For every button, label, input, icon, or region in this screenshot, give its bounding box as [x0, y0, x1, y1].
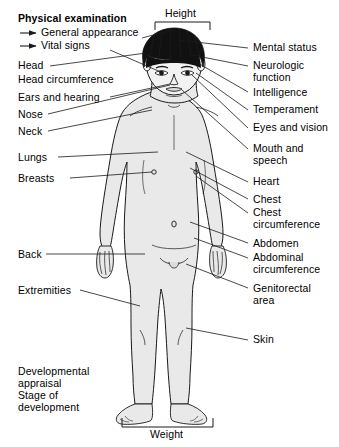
- label-appraisal: appraisal: [18, 378, 62, 390]
- mouth: [166, 88, 182, 92]
- label-neck: Neck: [18, 126, 42, 138]
- label-nose: Nose: [18, 109, 43, 121]
- label-abdomen: Abdomen: [253, 238, 299, 250]
- label-skin: Skin: [253, 334, 274, 346]
- label-ears-and-hearing: Ears and hearing: [18, 92, 100, 104]
- label-neurologic-function-line2: function: [253, 72, 291, 84]
- child-figure: [97, 28, 227, 424]
- label-head: Head: [18, 60, 44, 72]
- label-stage-of: Stage of: [18, 390, 58, 402]
- label-genitorectal: Genitorectal: [253, 283, 311, 295]
- label-breasts: Breasts: [18, 173, 54, 185]
- height-label: Height: [165, 8, 196, 20]
- label-abdominal-circumference-line2: circumference: [253, 264, 320, 276]
- label-mouth-and: Mouth and: [253, 143, 304, 155]
- physical-examination-diagram: Physical examination General appearance …: [0, 0, 339, 447]
- label-extremities: Extremities: [18, 285, 71, 297]
- leader-temperament: [196, 73, 248, 110]
- label-chest-circumference-line1: Chest: [253, 207, 281, 219]
- label-speech: speech: [253, 155, 287, 167]
- label-heart: Heart: [253, 176, 279, 188]
- label-abdominal: Abdominal: [253, 252, 304, 264]
- label-developmental: Developmental: [18, 366, 89, 378]
- page-title: Physical examination: [18, 13, 127, 25]
- right-foot: [170, 404, 206, 424]
- label-chest: Chest: [253, 194, 281, 206]
- weight-label: Weight: [150, 429, 183, 441]
- legend-item-vital-signs: Vital signs: [41, 40, 90, 52]
- label-intelligence: Intelligence: [253, 87, 307, 99]
- label-eyes-and-vision: Eyes and vision: [253, 122, 328, 134]
- label-temperament: Temperament: [253, 104, 318, 116]
- label-development: development: [18, 402, 79, 414]
- right-pupil: [185, 71, 190, 76]
- label-genitorectal-area-line2: area: [253, 295, 274, 307]
- label-back: Back: [18, 249, 42, 261]
- leader-intelligence: [196, 62, 248, 92]
- legend-item-general-appearance: General appearance: [41, 27, 139, 39]
- label-mental-status: Mental status: [253, 42, 317, 54]
- label-head-circumference: Head circumference: [18, 74, 114, 86]
- legend-arrows: [20, 33, 36, 46]
- leader-skin: [186, 328, 248, 340]
- label-neurologic: Neurologic: [253, 60, 304, 72]
- label-chest-circumference-line2: circumference: [253, 219, 320, 231]
- label-lungs: Lungs: [18, 152, 47, 164]
- body-silhouette: [100, 88, 223, 404]
